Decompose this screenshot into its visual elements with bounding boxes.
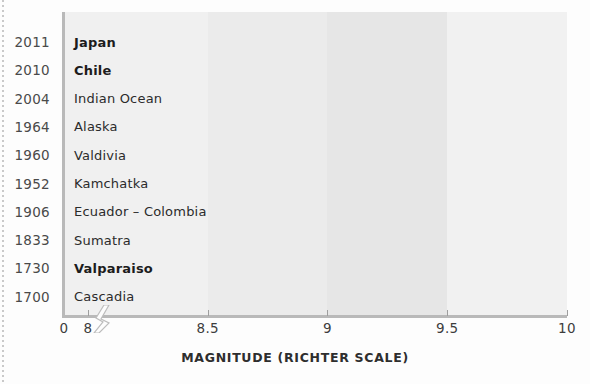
earthquake-magnitude-bar-chart: JapanChileIndian OceanAlaskaValdiviaKamc… bbox=[0, 0, 590, 384]
y-axis-year-label: 1952 bbox=[14, 172, 50, 196]
x-axis-tick-mark bbox=[327, 310, 328, 316]
bar-row[interactable]: Kamchatka bbox=[64, 172, 327, 196]
bar-row[interactable]: Indian Ocean bbox=[64, 87, 351, 111]
bar-row[interactable]: Japan bbox=[64, 30, 327, 54]
bar-label: Valparaiso bbox=[74, 256, 153, 280]
y-axis-year-label: 2011 bbox=[14, 30, 50, 54]
bar-label: Chile bbox=[74, 58, 112, 82]
bar-label: Kamchatka bbox=[74, 172, 148, 196]
bar-row[interactable]: Alaska bbox=[64, 115, 375, 139]
y-axis-year-label: 1833 bbox=[14, 228, 50, 252]
bar-label: Alaska bbox=[74, 115, 118, 139]
x-axis-tick-mark bbox=[567, 310, 568, 316]
bar-label: Valdivia bbox=[74, 143, 126, 167]
bar-row[interactable]: Ecuador – Colombia bbox=[64, 200, 280, 224]
x-axis-tick-label: 9 bbox=[323, 320, 332, 336]
y-axis-category-labels: 2011201020041964196019521906183317301700 bbox=[0, 12, 58, 315]
x-axis-tick-label: 8 bbox=[83, 320, 92, 336]
y-axis-year-label: 1964 bbox=[14, 115, 50, 139]
y-axis-year-label: 1700 bbox=[14, 285, 50, 309]
bar-label: Indian Ocean bbox=[74, 87, 162, 111]
x-axis-tick-label: 8.5 bbox=[197, 320, 219, 336]
bar-label: Ecuador – Colombia bbox=[74, 200, 207, 224]
x-axis-tick-mark bbox=[447, 310, 448, 316]
x-axis-tick-label: 9.5 bbox=[436, 320, 458, 336]
x-axis-tick-label: 0 bbox=[60, 320, 69, 336]
x-axis-tick-label: 10 bbox=[558, 320, 576, 336]
x-axis-title: MAGNITUDE (RICHTER SCALE) bbox=[0, 350, 590, 365]
bar-series: JapanChileIndian OceanAlaskaValdiviaKamc… bbox=[64, 12, 567, 315]
y-axis-year-label: 1960 bbox=[14, 143, 50, 167]
y-axis-year-label: 2010 bbox=[14, 58, 50, 82]
axis-break-zigzag-icon bbox=[93, 305, 115, 333]
bar-label: Sumatra bbox=[74, 228, 131, 252]
y-axis-year-label: 1730 bbox=[14, 256, 50, 280]
bar-row[interactable]: Valdivia bbox=[64, 143, 447, 167]
bar-row[interactable]: Valparaiso bbox=[64, 256, 256, 280]
x-axis-tick-mark bbox=[208, 310, 209, 316]
bar-row[interactable]: Chile bbox=[64, 58, 280, 82]
bar-row[interactable]: Sumatra bbox=[64, 228, 351, 252]
y-axis-year-label: 1906 bbox=[14, 200, 50, 224]
y-axis-year-label: 2004 bbox=[14, 87, 50, 111]
x-axis-line bbox=[62, 315, 567, 318]
bar-label: Japan bbox=[74, 30, 116, 54]
x-axis-tick-mark bbox=[88, 310, 89, 316]
